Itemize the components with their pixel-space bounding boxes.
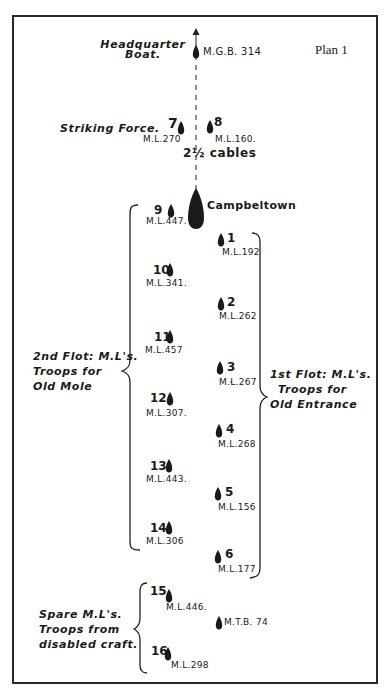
ship-number-16: 16 [151,644,168,658]
ship-code-16: M.L.298 [171,660,209,670]
plan-label: Plan 1 [315,42,348,58]
ship-number-3: 3 [227,360,235,374]
first-flotilla-label-line2: Troops for [270,383,371,396]
first-flotilla-label-line1: 1st Flot: M.L's. [270,368,371,381]
first-flotilla-label-line3: Old Entrance [270,398,371,411]
headquarter-label: Headquarter Boat. [100,38,186,61]
ship-code-13: M.L.443. [146,474,187,484]
ship-code-7: M.L.270 [143,134,181,144]
ship-code-2: M.L.262 [219,311,257,321]
ship-code-9: M.L.447. [146,216,187,226]
ship-number-10: 10 [153,263,170,277]
ship-number-11: 11 [154,330,171,344]
ship-code-6: M.L.177 [218,564,256,574]
ship-code-4: M.L.268 [218,439,256,449]
second-flotilla-label: 2nd Flot: M.L's. Troops for Old Mole [33,350,138,393]
second-flotilla-label-line2: Troops for [33,365,138,378]
second-flotilla-label-line3: Old Mole [33,380,138,393]
spare-label-line3: disabled craft. [39,638,138,651]
ship-code-12: M.L.307. [146,408,187,418]
ship-code-1: M.L.192 [222,247,260,257]
second-flotilla-label-line1: 2nd Flot: M.L's. [33,350,138,363]
spare-label-line2: Troops from [39,623,138,636]
ship-code-15: M.L.446. [166,602,207,612]
ship-code-3: M.L.267 [219,377,257,387]
ship-code-11: M.L.457 [145,345,183,355]
ship-number-2: 2 [227,295,235,309]
ship-number-9: 9 [154,203,162,217]
ship-number-15: 15 [150,584,167,598]
ship-number-12: 12 [150,391,167,405]
mtb74-code: M.T.B. 74 [224,617,268,627]
ship-number-8: 8 [214,115,222,129]
ship-code-10: M.L.341. [146,278,187,288]
ship-number-4: 4 [226,422,234,436]
spacing-cables-label: 2½ cables [183,146,257,160]
ship-number-1: 1 [227,231,235,245]
ship-code-14: M.L.306 [146,536,184,546]
ship-code-8: M.L.160. [215,134,256,144]
ship-number-14: 14 [150,521,167,535]
ship-number-6: 6 [225,547,233,561]
first-flotilla-label: 1st Flot: M.L's. Troops for Old Entrance [270,368,371,411]
mgb314-code: M.G.B. 314 [203,46,261,57]
spare-label: Spare M.L's. Troops from disabled craft. [39,608,138,651]
ship-code-5: M.L.156 [218,502,256,512]
spare-label-line1: Spare M.L's. [39,608,138,621]
ship-number-13: 13 [150,459,167,473]
campbeltown-label: Campbeltown [207,199,296,212]
ship-number-7: 7 [168,115,178,131]
ship-number-5: 5 [225,485,233,499]
